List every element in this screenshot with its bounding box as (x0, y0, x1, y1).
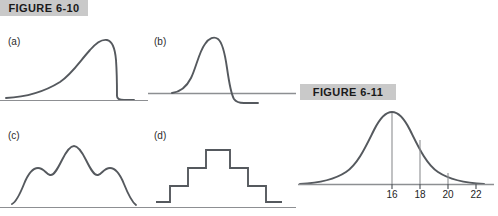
panel-a-curve (6, 40, 134, 100)
figure-6-11-label-band: FIGURE 6-11 (300, 84, 396, 100)
tick-label-22: 22 (466, 189, 486, 200)
figure-6-10-panel-a: (a) (0, 28, 148, 108)
figure-6-11-chart: 16 18 20 22 (296, 104, 498, 216)
tick-label-18: 18 (410, 189, 430, 200)
figure-6-10-label-text: FIGURE 6-10 (8, 2, 79, 14)
figure-6-10-panel-c: (c) (0, 118, 148, 210)
panel-c-curve (12, 146, 136, 205)
panel-a-curve-svg (0, 28, 148, 108)
panel-d-steps-svg (148, 118, 296, 210)
figure-6-10-label-band: FIGURE 6-10 (0, 0, 88, 16)
figure-6-10-panel-b: (b) (148, 28, 296, 108)
figure-page: FIGURE 6-10 (a) (b) (c) (d) FIGURE (0, 0, 498, 216)
figure-6-11-label-text: FIGURE 6-11 (313, 86, 383, 98)
panel-d-step-outline (156, 150, 282, 202)
tick-label-16: 16 (382, 189, 402, 200)
panel-c-curve-svg (0, 118, 148, 210)
panel-b-curve-svg (148, 28, 296, 108)
figure-6-10-panel-d: (d) (148, 118, 296, 210)
tick-label-20: 20 (438, 189, 458, 200)
